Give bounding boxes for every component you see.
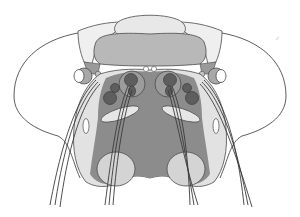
protocerebrum-upper [115, 15, 186, 36]
optic-lobe-left [74, 68, 92, 84]
brain-diagram [0, 0, 300, 217]
diagram-canvas [0, 0, 300, 217]
lateral-oval-left [83, 119, 89, 134]
ventral-lobe-left [97, 152, 135, 186]
lateral-oval-right [213, 119, 219, 134]
protocerebrum-central [94, 33, 206, 66]
ocellus-right [151, 66, 156, 71]
ocellus-left [143, 66, 148, 71]
optic-lobe-right [208, 68, 226, 84]
scan-artifact [276, 37, 279, 40]
